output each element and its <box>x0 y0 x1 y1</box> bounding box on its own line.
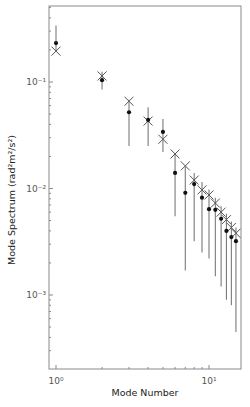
y-axis-title: Mode Spectrum (rad²m²/s²) <box>6 135 17 265</box>
observed-point <box>207 207 211 211</box>
plot-frame <box>49 6 241 369</box>
observed-point <box>229 235 233 239</box>
error-bars <box>56 25 236 332</box>
y-tick-label: 10⁻³ <box>26 290 46 300</box>
observed-point <box>192 182 196 186</box>
observed-point <box>234 239 238 243</box>
x-axis-tick-labels: 10⁰10¹ <box>48 376 216 386</box>
y-tick-label: 10⁻¹ <box>26 77 46 87</box>
y-axis-tick-labels: 10⁻¹10⁻²10⁻³ <box>26 77 46 300</box>
y-axis-ticks <box>49 8 53 351</box>
observed-point <box>173 171 177 175</box>
x-tick-label: 10⁰ <box>48 376 63 386</box>
observed-point <box>200 196 204 200</box>
observed-point <box>224 229 228 233</box>
y-tick-label: 10⁻² <box>26 184 46 194</box>
observed-point <box>213 208 217 212</box>
observed-point <box>161 130 165 134</box>
observed-point <box>183 191 187 195</box>
observed-point <box>100 78 104 82</box>
mode-spectrum-chart: 10⁻¹10⁻²10⁻³ 10⁰10¹ Mode Number Mode Spe… <box>0 0 250 407</box>
observed-point <box>54 41 58 45</box>
observed-point <box>146 118 150 122</box>
model-x-markers <box>52 47 241 238</box>
x-axis-ticks <box>56 365 209 369</box>
observed-point <box>127 110 131 114</box>
x-axis-title: Mode Number <box>111 387 178 398</box>
x-tick-label: 10¹ <box>201 376 216 386</box>
observed-point <box>219 217 223 221</box>
observed-dot-markers <box>54 41 238 243</box>
